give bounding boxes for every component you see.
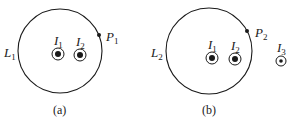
caption-a: (a): [53, 103, 66, 117]
svg-text:I1: I1: [53, 33, 63, 50]
point-P2-dot: [245, 29, 249, 33]
loop-L1: [18, 9, 102, 93]
point-P1-dot: [97, 33, 101, 37]
svg-text:I3: I3: [276, 40, 286, 57]
current-I2-b: I2: [229, 38, 241, 65]
current-I2-a: I2: [74, 34, 86, 61]
ampere-loop-diagram: L1 P1 I1 I2 (a) L2 P2 I1 I2: [0, 0, 287, 126]
panel-a: L1 P1 I1 I2 (a): [3, 9, 118, 117]
loop-label-L1: L1: [3, 45, 16, 62]
svg-text:I1: I1: [207, 37, 217, 54]
current-I3-b: I3: [276, 40, 286, 66]
panel-b: L2 P2 I1 I2 I3 (b): [150, 8, 286, 117]
svg-text:I2: I2: [230, 38, 240, 55]
caption-b: (b): [202, 103, 216, 117]
loop-label-L2: L2: [150, 45, 163, 62]
current-I1-b: I1: [206, 37, 218, 64]
svg-text:I2: I2: [75, 34, 85, 51]
current-I1-a: I1: [52, 33, 64, 60]
point-label-P2: P2: [254, 25, 267, 42]
point-label-P1: P1: [105, 29, 118, 46]
